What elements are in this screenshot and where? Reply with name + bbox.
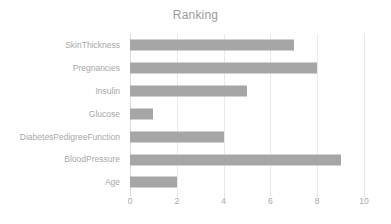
bar-series: [130, 34, 364, 194]
y-axis-label-row: Pregnancies: [0, 57, 124, 80]
y-axis-label: Age: [105, 178, 120, 187]
bar[interactable]: [130, 154, 341, 165]
x-axis-tick-mark: [270, 194, 271, 197]
chart-title: Ranking: [0, 8, 391, 22]
x-axis-tick-mark: [364, 194, 365, 197]
bar-row[interactable]: [130, 171, 364, 194]
x-axis-tick-label: 6: [268, 196, 273, 206]
y-axis-label: Insulin: [95, 87, 120, 96]
y-axis-label: Pregnancies: [73, 64, 120, 73]
bar-row[interactable]: [130, 125, 364, 148]
x-axis-tick-label: 2: [174, 196, 179, 206]
y-axis-label-row: SkinThickness: [0, 34, 124, 57]
y-axis-label-row: Insulin: [0, 80, 124, 103]
y-axis-label-row: Age: [0, 171, 124, 194]
x-axis-tick-mark: [177, 194, 178, 197]
bar-row[interactable]: [130, 103, 364, 126]
y-axis-label-row: DiabetesPedigreeFunction: [0, 125, 124, 148]
bar[interactable]: [130, 86, 247, 97]
bar[interactable]: [130, 40, 294, 51]
y-axis-label: Glucose: [89, 110, 120, 119]
bar-row[interactable]: [130, 148, 364, 171]
y-axis-label: DiabetesPedigreeFunction: [20, 133, 120, 142]
y-axis-category-labels: SkinThicknessPregnanciesInsulinGlucoseDi…: [0, 34, 124, 194]
y-axis-label: BloodPressure: [64, 155, 120, 164]
bar-row[interactable]: [130, 34, 364, 57]
x-axis-tick-label: 4: [221, 196, 226, 206]
x-axis-tick-mark: [317, 194, 318, 197]
x-axis-tick-mark: [130, 194, 131, 197]
bar[interactable]: [130, 131, 224, 142]
bar[interactable]: [130, 63, 317, 74]
bar-chart: Ranking SkinThicknessPregnanciesInsulinG…: [0, 0, 391, 224]
x-axis-tick-mark: [224, 194, 225, 197]
bar[interactable]: [130, 108, 153, 119]
x-axis-tick-label: 8: [315, 196, 320, 206]
x-axis-tick-label: 10: [359, 196, 368, 206]
bar-row[interactable]: [130, 80, 364, 103]
y-axis-label: SkinThickness: [65, 41, 120, 50]
plot-area: [130, 34, 364, 194]
x-axis-tick-labels: 0246810: [130, 196, 364, 212]
bar[interactable]: [130, 177, 177, 188]
gridline: [364, 34, 365, 194]
bar-row[interactable]: [130, 57, 364, 80]
y-axis-label-row: Glucose: [0, 103, 124, 126]
x-axis-tick-label: 0: [128, 196, 133, 206]
y-axis-label-row: BloodPressure: [0, 148, 124, 171]
